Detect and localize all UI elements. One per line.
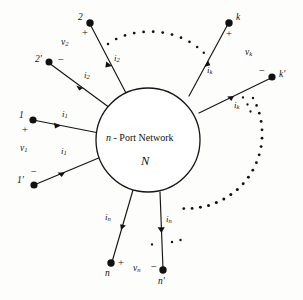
port-n-left-terminal-dot <box>107 259 114 266</box>
port-n-plus-sign: + <box>118 258 124 269</box>
port-n-right-terminal-dot <box>159 266 166 273</box>
port-1-top-lead <box>33 120 99 133</box>
port-2-bottom-terminal-dot <box>46 59 53 66</box>
diagram-canvas <box>0 0 303 300</box>
port-k-top-node-label: k <box>236 13 240 23</box>
network-title: n - Port Network <box>106 132 174 143</box>
port-1-bottom-current-label: i1 <box>61 147 67 157</box>
port-n-left-current-label: in <box>105 213 111 223</box>
k-inner-ellipsis-dots <box>242 96 252 112</box>
port-2-bottom-node-label: 2' <box>35 55 42 65</box>
port-k-minus-sign: − <box>259 66 265 77</box>
port-1-top-terminal-dot <box>29 116 36 123</box>
port-2-top-lead <box>90 24 127 95</box>
port-k-bottom-node-label: k' <box>279 70 285 80</box>
port-n-right-current-label: in <box>166 215 172 225</box>
port-2-top-current-label: i2 <box>114 54 120 64</box>
port-1-bottom-node-label: 1' <box>17 176 24 186</box>
port-n-voltage-label: vn <box>133 264 141 274</box>
port-n-right-node-label: n' <box>158 277 165 287</box>
port-1-top-current-label: i1 <box>62 110 68 120</box>
bottom-ellipsis-dots <box>151 239 182 246</box>
port-2-minus-sign: − <box>58 55 64 66</box>
port-1-minus-sign: − <box>31 167 37 178</box>
port-2-bottom-current-label: i2 <box>84 71 90 81</box>
port-2-top-node-label: 2 <box>78 13 83 23</box>
port-1-voltage-label: v1 <box>20 144 28 154</box>
port-1-top-node-label: 1 <box>19 111 24 121</box>
port-n-right-current-arrow <box>158 227 165 233</box>
port-k-top-current-label: ik <box>207 66 212 76</box>
port-k-voltage-label: vk <box>245 48 252 58</box>
port-n-left-current-arrow <box>120 224 126 230</box>
n-port-network-figure: n - Port Network N 1 + v1 1' − i1 i1 2 +… <box>0 0 303 300</box>
port-n-group <box>107 190 166 274</box>
top-ellipsis-dots <box>107 30 205 54</box>
port-k-bottom-current-label: ik <box>234 101 239 111</box>
port-2-top-terminal-dot <box>86 19 93 26</box>
port-1-top-current-arrow <box>54 123 61 129</box>
network-title-rest: - Port Network <box>111 132 174 143</box>
port-2-plus-sign: + <box>82 28 88 39</box>
port-k-top-lead <box>189 24 228 96</box>
network-symbol: N <box>141 154 149 169</box>
port-k-top-terminal-dot <box>225 19 232 26</box>
port-n-minus-sign: − <box>151 262 157 273</box>
port-k-plus-sign: + <box>226 29 232 40</box>
port-1-bottom-lead <box>34 157 101 185</box>
port-1-bottom-terminal-dot <box>30 181 37 188</box>
port-2-bottom-lead <box>49 63 110 108</box>
port-n-left-node-label: n <box>105 269 110 279</box>
port-k-bottom-terminal-dot <box>268 73 275 80</box>
port-1-plus-sign: + <box>22 125 28 136</box>
port-2-voltage-label: v2 <box>61 38 69 48</box>
